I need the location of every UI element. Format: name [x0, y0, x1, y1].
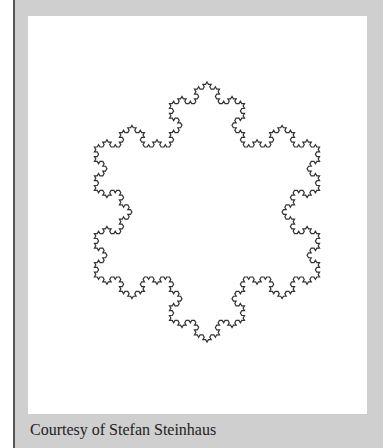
figure-image-area — [28, 16, 367, 414]
figure-panel: Courtesy of Stefan Steinhaus — [13, 0, 383, 448]
figure-caption: Courtesy of Stefan Steinhaus — [30, 421, 216, 439]
koch-snowflake-image — [28, 16, 367, 414]
